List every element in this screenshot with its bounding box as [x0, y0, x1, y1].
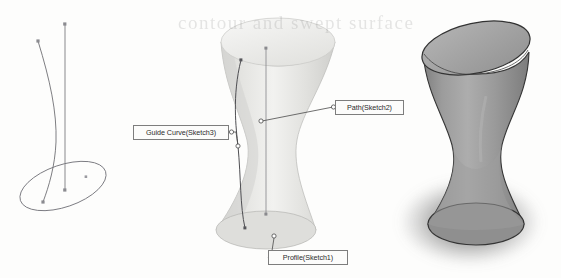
sketch-guide-endpoint-top — [36, 39, 39, 42]
leader-guide-curve-endpoint — [229, 130, 233, 134]
leader-profile-anchor — [272, 234, 276, 238]
ghost-bleed-text: contour and swept surface — [178, 12, 468, 36]
sketch-ellipse-quadrant-marker — [85, 175, 88, 178]
callout-guide-curve-label: Guide Curve(Sketch3) — [146, 129, 216, 136]
leader-guide-curve-anchor — [236, 144, 240, 148]
figure-canvas: contour and swept surface — [0, 0, 561, 278]
panel-shaded-preview — [216, 18, 336, 260]
figure-graphics — [0, 0, 561, 278]
preview-solid-bottom-ellipse — [216, 211, 316, 249]
panel-rendered-solid — [398, 12, 542, 266]
callout-profile[interactable]: Profile(Sketch1) — [268, 250, 348, 265]
sketch-guide-endpoint-bottom — [41, 200, 44, 203]
callout-guide-curve[interactable]: Guide Curve(Sketch3) — [133, 125, 229, 140]
sketch-profile-ellipse — [14, 151, 113, 220]
preview-path-endpoint-top — [264, 47, 267, 50]
sketch-path-endpoint-bottom — [63, 188, 66, 191]
preview-guide-endpoint-bottom — [243, 226, 246, 229]
panel-wireframe-sketch — [14, 22, 113, 220]
leader-path-anchor — [259, 119, 263, 123]
callout-path-label: Path(Sketch2) — [347, 104, 392, 111]
preview-guide-endpoint-top — [239, 58, 242, 61]
preview-path-endpoint-bottom — [264, 213, 267, 216]
sketch-guide-curve — [38, 41, 56, 202]
sketch-path-endpoint-top — [63, 22, 66, 25]
callout-profile-label: Profile(Sketch1) — [283, 254, 333, 261]
callout-path[interactable]: Path(Sketch2) — [335, 100, 404, 115]
